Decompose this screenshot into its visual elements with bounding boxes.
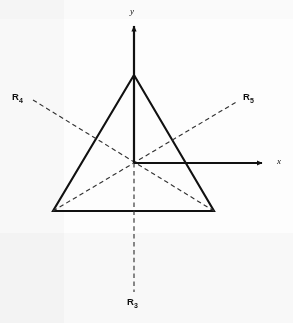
- r4-subscript: 4: [19, 97, 23, 104]
- reflection-axis-r4: [33, 100, 214, 211]
- r3-subscript: 3: [134, 302, 138, 309]
- r5-letter: R: [243, 91, 250, 102]
- diagram-canvas: [0, 0, 293, 323]
- geometry-figure: y x R4 R5 R3: [0, 0, 293, 323]
- reflection-axis-r5: [53, 101, 238, 211]
- r5-subscript: 5: [250, 97, 254, 104]
- x-axis-label: x: [277, 157, 281, 166]
- r3-letter: R: [127, 296, 134, 307]
- reflection-axis-r5-label: R5: [243, 92, 254, 104]
- reflection-axis-r4-label: R4: [12, 92, 23, 104]
- reflection-axis-r3-label: R3: [127, 297, 138, 309]
- r4-letter: R: [12, 91, 19, 102]
- y-axis-label: y: [130, 7, 134, 16]
